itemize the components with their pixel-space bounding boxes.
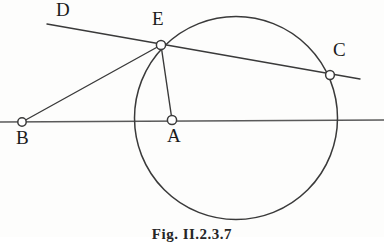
point-label-b: B — [16, 128, 29, 147]
horizontal-base-line — [0, 120, 384, 122]
point-label-c: C — [333, 40, 346, 59]
figure-caption: Fig. II.2.3.7 — [0, 226, 384, 243]
point-marker-a — [167, 115, 176, 124]
point-label-a: A — [167, 126, 181, 145]
point-marker-e — [156, 40, 165, 49]
point-markers-group — [18, 40, 335, 126]
point-label-d: D — [56, 0, 70, 19]
point-marker-b — [18, 118, 26, 126]
radius-e-to-a — [161, 45, 172, 120]
point-label-e: E — [152, 9, 164, 28]
point-marker-c — [326, 71, 335, 80]
